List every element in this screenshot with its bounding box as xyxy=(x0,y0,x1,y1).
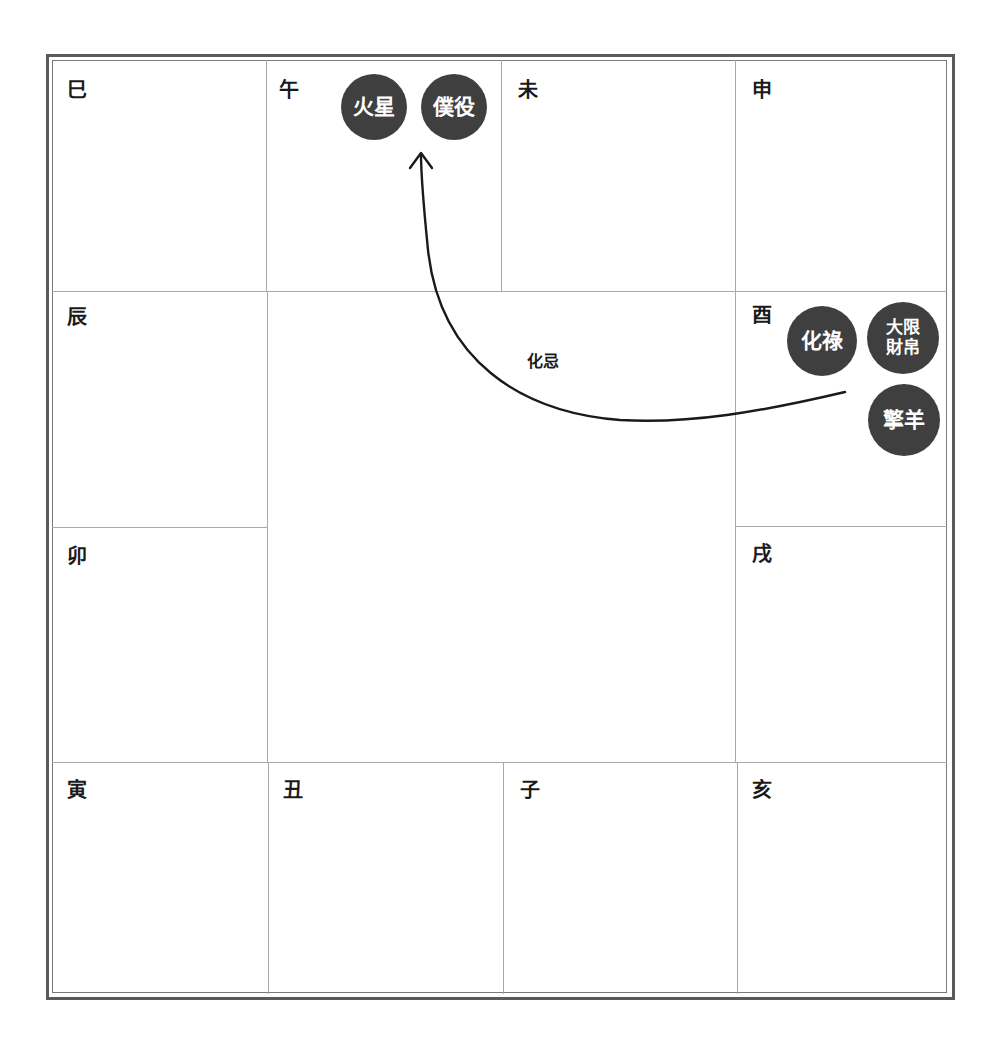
star-badge-label: 火星 xyxy=(353,95,395,119)
arrow-label-hua-ji: 化忌 xyxy=(527,348,559,372)
palace-badge-label: 僕役 xyxy=(433,95,475,119)
decade-badge-line1: 大限 xyxy=(886,318,920,338)
palace-chou[interactable]: 丑 xyxy=(268,762,503,994)
transform-badge-label: 化祿 xyxy=(801,329,843,353)
palace-label-yin: 寅 xyxy=(67,780,87,800)
palace-wei[interactable]: 未 xyxy=(501,60,735,291)
palace-zi[interactable]: 子 xyxy=(503,762,737,994)
palace-shen[interactable]: 申 xyxy=(735,60,947,291)
chart-center-area xyxy=(267,291,735,762)
star-badge-huo-xing[interactable]: 火星 xyxy=(341,74,407,140)
palace-label-wei: 未 xyxy=(518,80,538,100)
transform-badge-hua-lu[interactable]: 化祿 xyxy=(787,306,857,376)
palace-label-hai: 亥 xyxy=(752,780,772,800)
palace-yin[interactable]: 寅 xyxy=(52,762,268,994)
palace-label-shen: 申 xyxy=(752,80,772,100)
star-badge-label: 擎羊 xyxy=(883,408,925,432)
decade-badge-line2: 財帛 xyxy=(886,338,920,358)
palace-label-chen: 辰 xyxy=(67,307,87,327)
palace-si[interactable]: 巳 xyxy=(52,60,266,291)
palace-label-mao: 卯 xyxy=(67,546,87,566)
decade-palace-badge[interactable]: 大限 財帛 xyxy=(867,302,939,374)
palace-mao[interactable]: 卯 xyxy=(52,527,267,762)
palace-badge-pu-yi[interactable]: 僕役 xyxy=(421,74,487,140)
palace-label-zi: 子 xyxy=(520,780,540,800)
palace-hai[interactable]: 亥 xyxy=(737,762,947,994)
palace-chen[interactable]: 辰 xyxy=(52,291,267,527)
palace-label-xu: 戌 xyxy=(752,544,772,564)
palace-xu[interactable]: 戌 xyxy=(735,526,947,762)
palace-label-chou: 丑 xyxy=(283,780,303,800)
palace-label-you: 酉 xyxy=(752,305,772,325)
star-badge-qing-yang[interactable]: 擎羊 xyxy=(868,384,940,456)
palace-label-si: 巳 xyxy=(67,80,87,100)
palace-label-wu: 午 xyxy=(279,80,299,100)
